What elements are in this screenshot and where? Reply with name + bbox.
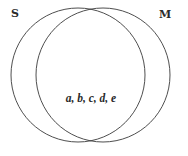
set-label-m: M	[159, 9, 171, 20]
intersection-elements: a, b, c, d, e	[60, 93, 122, 105]
circle-m	[36, 8, 170, 142]
set-label-s: S	[11, 8, 19, 19]
circle-s	[11, 8, 145, 142]
venn-circles	[0, 0, 188, 156]
